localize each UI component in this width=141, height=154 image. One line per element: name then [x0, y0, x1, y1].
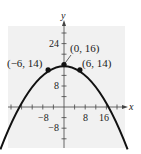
x-tick-label-neg8: −8 — [38, 112, 49, 123]
x-axis-label: x — [128, 101, 134, 112]
point-vertex-0-16 — [61, 62, 66, 67]
y-tick-label-8: 8 — [54, 80, 59, 91]
point-label-right: (6, 14) — [82, 57, 112, 70]
y-tick-label-24: 24 — [49, 38, 59, 49]
point-label-vertex: (0, 16) — [70, 42, 100, 55]
parabola-chart: x y −8 8 16 24 8 −8 (−6, 14) (0, 16) (6,… — [0, 0, 141, 154]
point-label-left: (−6, 14) — [7, 57, 43, 70]
plot-background — [8, 26, 125, 148]
y-tick-label-neg8: −8 — [48, 122, 59, 133]
x-tick-label-8: 8 — [83, 112, 88, 123]
point-neg6-14 — [46, 67, 51, 72]
y-axis-label: y — [60, 10, 66, 21]
x-tick-label-16: 16 — [99, 112, 109, 123]
